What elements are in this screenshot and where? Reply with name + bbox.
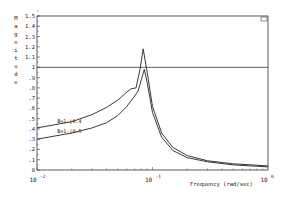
y-tick-label: .2 [28, 146, 35, 152]
svg-text:t: t [14, 55, 17, 61]
svg-text:i: i [14, 47, 17, 53]
svg-text:-2: -2 [40, 174, 46, 179]
svg-text:10: 10 [260, 176, 268, 183]
series-annotation: B=1-j0.5 [57, 128, 81, 135]
y-tick-label: 0 [32, 167, 35, 173]
series-annotations: B=1-j0.4B=1-j0.5 [57, 118, 81, 135]
y-tick-label: 1.3 [25, 34, 35, 40]
svg-text:a: a [14, 23, 17, 29]
svg-text:10: 10 [145, 176, 153, 183]
svg-text:u: u [14, 63, 17, 69]
x-axis-label: Frequency (rad/sec) [190, 181, 253, 188]
svg-text:10: 10 [29, 176, 37, 183]
y-tick-label: .7 [28, 95, 35, 101]
y-tick-label: .5 [28, 116, 35, 122]
y-tick-label: .6 [28, 105, 35, 111]
y-tick-label: .1 [28, 157, 35, 163]
y-tick-label: 1.4 [25, 23, 36, 29]
y-tick-label: .3 [28, 136, 35, 142]
y-tick-label: 1.1 [25, 54, 35, 60]
y-tick-label: .8 [28, 85, 35, 91]
svg-text:-1: -1 [156, 174, 162, 179]
x-tick-label: 100 [260, 174, 274, 183]
svg-text:0: 0 [271, 174, 274, 179]
y-tick-label: 1.5 [25, 13, 35, 19]
svg-text:d: d [14, 71, 17, 77]
corner-marker-icon [261, 17, 267, 21]
svg-text:e: e [14, 79, 17, 85]
magnitude-chart: 0.1.2.3.4.5.6.7.8.911.11.21.31.41.5 10-2… [0, 0, 283, 197]
y-axis: 0.1.2.3.4.5.6.7.8.911.11.21.31.41.5 [25, 11, 40, 173]
series-line-1 [37, 49, 268, 166]
plot-frame [37, 16, 268, 170]
svg-text:M: M [14, 15, 18, 21]
y-tick-label: .9 [28, 75, 35, 81]
series-annotation: B=1-j0.4 [57, 118, 81, 125]
y-axis-label: Magnitude [14, 15, 18, 85]
series-lines [37, 49, 268, 167]
plot-border [37, 16, 268, 170]
y-tick-label: 1 [32, 64, 35, 70]
y-tick-label: 1.2 [25, 44, 35, 50]
svg-text:g: g [14, 31, 17, 38]
svg-text:n: n [14, 39, 17, 45]
y-tick-label: .4 [28, 126, 35, 132]
x-tick-label: 10-1 [145, 174, 161, 183]
x-tick-label: 10-2 [29, 174, 45, 183]
